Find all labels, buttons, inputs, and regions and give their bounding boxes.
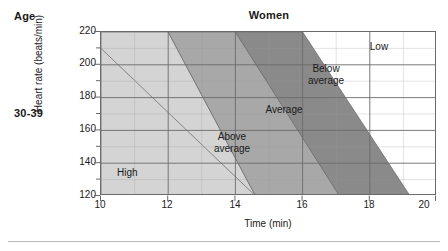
y-tick-140: 140 <box>62 157 96 167</box>
x-axis-title: Time (min) <box>100 218 436 229</box>
band-label-below-average: Below average <box>295 63 357 86</box>
x-tick-20: 20 <box>409 200 439 210</box>
y-tick-160: 160 <box>62 124 96 134</box>
band-label-high: High <box>117 167 138 179</box>
y-axis-title: Heart rate (beats/min) <box>33 0 44 149</box>
band-label-above-average: Above average <box>201 131 263 154</box>
band-label-below-average-line1: Below <box>295 63 357 75</box>
y-tick-180: 180 <box>62 91 96 101</box>
band-label-below-average-line2: average <box>295 75 357 87</box>
band-label-above-average-line2: average <box>201 143 263 155</box>
y-tick-120: 120 <box>62 190 96 200</box>
band-label-low: Low <box>359 41 399 53</box>
footer-divider <box>8 241 440 242</box>
chart-plot-area: High Above average Average Below average… <box>100 31 436 195</box>
y-axis-tick-labels: 220 200 180 160 140 120 <box>58 0 96 251</box>
x-tick-10: 10 <box>85 200 115 210</box>
band-label-average: Average <box>253 104 315 116</box>
x-tick-12: 12 <box>152 200 182 210</box>
x-tick-14: 14 <box>220 200 250 210</box>
y-tick-200: 200 <box>62 58 96 68</box>
x-tick-18: 18 <box>354 200 384 210</box>
band-label-above-average-line1: Above <box>201 131 263 143</box>
x-tick-16: 16 <box>287 200 317 210</box>
y-tick-220: 220 <box>62 26 96 36</box>
